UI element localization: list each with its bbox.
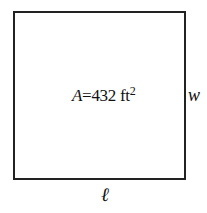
area-unit: ft: [120, 86, 130, 105]
area-exponent: 2: [130, 84, 136, 98]
equals-sign: =: [82, 86, 91, 105]
width-label: w: [188, 85, 200, 106]
length-label: ℓ: [101, 184, 109, 206]
area-label: A=432 ft2: [72, 86, 135, 106]
area-value: 432: [91, 86, 116, 105]
area-variable: A: [72, 86, 82, 105]
